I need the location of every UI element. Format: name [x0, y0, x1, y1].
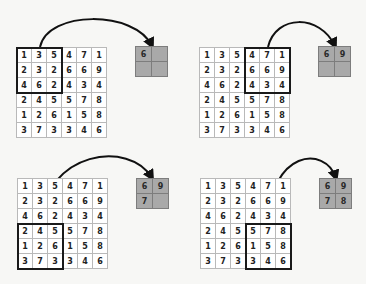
input-cell: 2: [201, 194, 216, 209]
input-cell: 3: [246, 254, 261, 269]
input-cell: 8: [93, 239, 108, 254]
input-cell: 9: [93, 194, 108, 209]
output-grid-step-2: 69: [318, 46, 351, 77]
input-cell: 3: [48, 254, 63, 269]
input-cell: 9: [275, 63, 290, 78]
input-cell: 1: [93, 179, 108, 194]
input-cell: 6: [216, 209, 231, 224]
input-cell: 7: [260, 48, 275, 63]
input-cell: 5: [260, 108, 275, 123]
arrow-step-1: [40, 19, 152, 47]
input-cell: 6: [261, 194, 276, 209]
input-cell: 2: [200, 93, 215, 108]
input-cell: 3: [18, 254, 33, 269]
input-cell: 7: [33, 254, 48, 269]
input-cell: 5: [48, 224, 63, 239]
input-cell: 7: [260, 93, 275, 108]
input-cell: 4: [32, 93, 47, 108]
output-cell: 9: [335, 47, 351, 62]
input-cell: 3: [78, 209, 93, 224]
input-cell: 3: [260, 78, 275, 93]
input-cell: 7: [32, 123, 47, 138]
output-cell: [152, 62, 168, 77]
input-cell: 6: [246, 194, 261, 209]
input-cell: 7: [77, 93, 92, 108]
input-cell: 1: [18, 179, 33, 194]
input-cell: 3: [216, 179, 231, 194]
input-cell: 3: [215, 48, 230, 63]
input-cell: 7: [78, 179, 93, 194]
input-cell: 6: [245, 63, 260, 78]
input-cell: 5: [63, 224, 78, 239]
input-cell: 3: [216, 194, 231, 209]
arrow-step-2: [268, 22, 335, 47]
input-cell: 2: [48, 209, 63, 224]
input-cell: 5: [47, 48, 62, 63]
output-cell: [152, 47, 168, 62]
input-cell: 6: [260, 63, 275, 78]
input-cell: 2: [216, 239, 231, 254]
input-cell: 2: [201, 224, 216, 239]
input-cell: 4: [93, 209, 108, 224]
input-cell: 1: [18, 239, 33, 254]
input-grid-step-2: 135471232669462434245578126158373346: [199, 47, 290, 138]
input-cell: 5: [47, 93, 62, 108]
input-cell: 8: [276, 224, 291, 239]
input-cell: 7: [261, 179, 276, 194]
output-cell: [335, 62, 351, 77]
input-cell: 3: [77, 78, 92, 93]
input-cell: 4: [260, 123, 275, 138]
output-cell: 8: [336, 194, 352, 209]
input-cell: 9: [92, 63, 107, 78]
output-cell: [319, 62, 335, 77]
input-cell: 6: [276, 254, 291, 269]
input-grid-step-1: 135471232669462434245578126158373346: [16, 47, 107, 138]
input-cell: 4: [201, 209, 216, 224]
output-grid-step-1: 6: [135, 46, 168, 77]
input-cell: 4: [275, 78, 290, 93]
output-cell: 7: [137, 194, 153, 209]
output-cell: 6: [137, 179, 153, 194]
input-cell: 2: [17, 93, 32, 108]
input-cell: 4: [261, 254, 276, 269]
input-cell: 4: [215, 93, 230, 108]
input-cell: 6: [77, 63, 92, 78]
input-cell: 6: [48, 239, 63, 254]
output-cell: 9: [153, 179, 169, 194]
input-cell: 6: [32, 78, 47, 93]
input-cell: 2: [230, 78, 245, 93]
input-cell: 3: [32, 48, 47, 63]
input-cell: 6: [47, 108, 62, 123]
input-cell: 1: [92, 48, 107, 63]
output-cell: 6: [320, 179, 336, 194]
input-cell: 2: [230, 63, 245, 78]
input-cell: 2: [231, 209, 246, 224]
output-grid-step-4: 6978: [319, 178, 352, 209]
input-cell: 2: [48, 194, 63, 209]
input-cell: 3: [17, 123, 32, 138]
input-cell: 3: [33, 194, 48, 209]
input-cell: 1: [62, 108, 77, 123]
input-cell: 3: [63, 254, 78, 269]
input-cell: 4: [78, 254, 93, 269]
input-cell: 1: [200, 48, 215, 63]
input-cell: 6: [275, 123, 290, 138]
input-grid-step-4: 135471232669462434245578126158373346: [200, 178, 291, 269]
input-cell: 1: [201, 239, 216, 254]
input-cell: 1: [245, 108, 260, 123]
input-cell: 7: [216, 254, 231, 269]
input-cell: 5: [261, 239, 276, 254]
input-cell: 4: [63, 209, 78, 224]
input-cell: 6: [62, 63, 77, 78]
input-cell: 4: [216, 224, 231, 239]
input-cell: 5: [246, 224, 261, 239]
output-grid-step-3: 697: [136, 178, 169, 209]
input-cell: 5: [62, 93, 77, 108]
input-cell: 1: [275, 48, 290, 63]
input-cell: 4: [245, 78, 260, 93]
input-cell: 5: [230, 93, 245, 108]
output-cell: 6: [319, 47, 335, 62]
input-cell: 3: [62, 123, 77, 138]
input-cell: 7: [215, 123, 230, 138]
input-cell: 3: [47, 123, 62, 138]
